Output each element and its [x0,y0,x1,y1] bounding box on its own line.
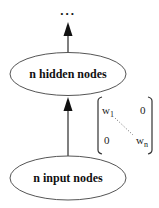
matrix-right-bracket [148,97,152,154]
weight-matrix: w1 0 0 wn [98,97,152,154]
matrix-bottom-left-zero: 0 [104,134,110,146]
matrix-diagonal-dots [115,118,133,135]
input-layer-node: n input nodes [10,156,126,200]
hidden-layer-label: n hidden nodes [29,67,107,81]
matrix-w1: w1 [102,104,114,119]
matrix-wn: wn [136,134,148,149]
matrix-top-right-zero: 0 [140,104,146,116]
diagram-canvas: ... n hidden nodes n input nodes w1 0 0 … [0,0,159,208]
arrow-input-to-hidden [64,97,73,156]
arrow-hidden-to-next [64,22,73,52]
input-layer-label: n input nodes [33,171,103,185]
hidden-layer-node: n hidden nodes [10,53,126,96]
continuation-dots: ... [60,3,76,18]
